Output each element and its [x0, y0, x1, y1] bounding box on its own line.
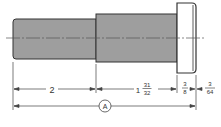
- dim-label-2-den: 8: [183, 89, 187, 95]
- dim-label-3-den: 64: [207, 89, 214, 95]
- dim-label-3-num: 3: [208, 81, 212, 87]
- dim-label-1-whole: 1: [136, 86, 141, 95]
- dim-label-1-num: 31: [144, 82, 151, 88]
- callout-label-a: A: [103, 103, 108, 110]
- dimension-row-1: [14, 88, 202, 91]
- dim-label-2-num: 3: [183, 81, 187, 87]
- shaft-drawing: 2 1 31 32 3 8 3 64 A: [0, 0, 221, 127]
- dim-label-1-den: 32: [144, 90, 151, 96]
- small-shaft: [13, 19, 96, 59]
- dim-label-2: 2: [49, 85, 54, 95]
